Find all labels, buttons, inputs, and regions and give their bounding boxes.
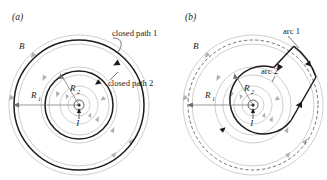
panel-b-radius-inner-label: R xyxy=(243,83,250,93)
arc-2-annotation: arc 2 xyxy=(261,66,278,76)
panel-b-radius-inner-sub: 2 xyxy=(251,89,254,95)
closed-path-2-annotation: closed path 2 xyxy=(108,78,153,88)
panel-b-radius-outer-label: R xyxy=(204,90,211,100)
panel-a-radius-inner-label: R xyxy=(69,83,76,93)
panel-a-field-label: B xyxy=(19,41,25,51)
closed-path-1-annotation: closed path 1 xyxy=(112,28,157,38)
panel-a-radius-outer-sub: 1 xyxy=(38,96,41,102)
figure-container: (a) xyxy=(0,0,327,180)
panel-a-radius-outer-label: R xyxy=(30,90,37,100)
panel-b-label: (b) xyxy=(185,12,196,23)
panel-a-radius-inner-sub: 2 xyxy=(77,89,80,95)
figure-svg: (a) xyxy=(0,0,327,180)
arc-1-annotation: arc 1 xyxy=(283,26,300,36)
panel-b-field-label: B xyxy=(193,41,199,51)
panel-b-radius-outer-sub: 1 xyxy=(212,96,215,102)
panel-a-label: (a) xyxy=(12,12,23,23)
